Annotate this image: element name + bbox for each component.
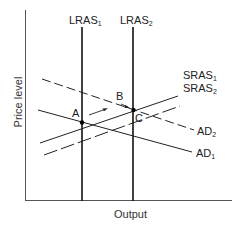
sras2-label: SRAS2 [183, 83, 217, 95]
diagram-canvas [0, 0, 235, 230]
point-a-label: A [72, 108, 79, 119]
y-axis-label: Price level [12, 72, 24, 132]
x-axis-label: Output [114, 209, 147, 220]
sras1-line [40, 96, 178, 143]
point-b-label: B [116, 91, 123, 102]
ad2-line [42, 79, 194, 130]
ad-as-diagram: LRAS1 LRAS2 SRAS1 SRAS2 AD2 AD1 A B C Ou… [0, 0, 235, 230]
lras2-label: LRAS2 [120, 15, 153, 27]
sras1-label: SRAS1 [183, 70, 217, 82]
ad1-label: AD1 [196, 148, 215, 160]
point-c-label: C [135, 113, 143, 124]
point-a-dot [80, 120, 84, 124]
arrowhead-bc-icon [125, 105, 131, 108]
ad1-line [38, 110, 192, 152]
lras1-label: LRAS1 [69, 15, 102, 27]
sras2-line [44, 106, 180, 155]
ad2-label: AD2 [197, 126, 216, 138]
arrowhead-ab-icon [103, 108, 109, 111]
